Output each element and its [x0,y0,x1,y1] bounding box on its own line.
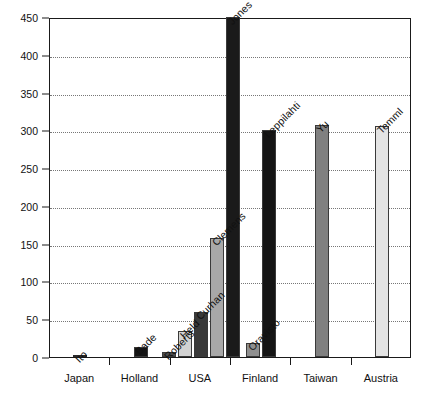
x-tick-mark [290,358,291,365]
bar-chart: 050100150200250300350400450 ItoBadeRober… [0,0,432,402]
y-tick-mark [42,55,49,56]
x-axis: JapanHollandUSAFinlandTaiwanAustria [49,358,411,402]
y-tick-label: 250 [20,164,38,175]
series-label-temml: Temml [374,105,405,136]
x-group-label-japan: Japan [64,372,94,384]
y-tick-mark [42,206,49,207]
bar-jones [226,17,240,357]
y-tick-label: 200 [20,202,38,213]
y-axis: 050100150200250300350400450 [0,0,49,402]
y-tick-mark [42,131,49,132]
bar-yu [315,125,329,357]
x-group-label-usa: USA [189,372,212,384]
y-tick-mark [42,320,49,321]
y-tick-label: 400 [20,51,38,62]
x-group-label-taiwan: Taiwan [303,372,337,384]
y-tick-label: 50 [26,315,38,326]
y-tick-label: 100 [20,277,38,288]
y-tick-mark [42,93,49,94]
y-tick-label: 150 [20,239,38,250]
y-tick-mark [42,244,49,245]
plot-area: ItoBadeRobertsHeldCurhanClemensJonesOrav… [49,18,411,358]
y-tick-label: 450 [20,13,38,24]
x-tick-mark [230,358,231,365]
y-tick-label: 300 [20,126,38,137]
series-label-leppilahti: Leppilahti [261,99,302,140]
y-tick-label: 0 [32,353,38,364]
y-tick-mark [42,18,49,19]
x-group-label-austria: Austria [364,372,398,384]
x-tick-mark [109,358,110,365]
y-tick-mark [42,169,49,170]
x-tick-mark [351,358,352,365]
x-tick-mark [170,358,171,365]
x-group-label-finland: Finland [242,372,278,384]
y-tick-label: 350 [20,88,38,99]
y-tick-mark [42,358,49,359]
bar-temml [375,126,389,357]
x-group-label-holland: Holland [121,372,158,384]
y-tick-mark [42,282,49,283]
